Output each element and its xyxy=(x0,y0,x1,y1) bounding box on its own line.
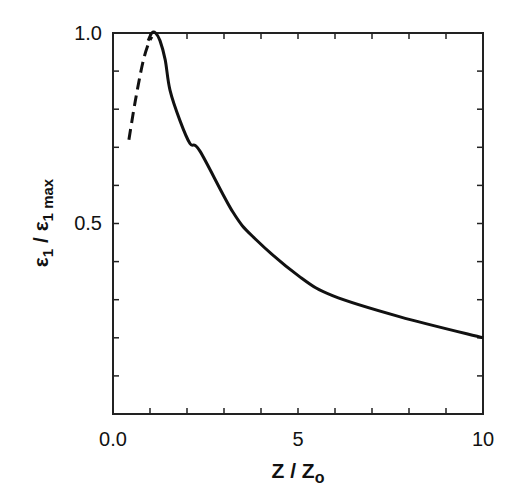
y-axis-label: ε1 / ε1 max xyxy=(29,178,56,267)
y-tick-label-0.5: 0.5 xyxy=(74,212,102,234)
data-series xyxy=(129,32,483,338)
dashed-curve xyxy=(129,37,152,140)
y-tick-label-1: 1.0 xyxy=(74,22,102,44)
x-tick-label-10: 10 xyxy=(472,428,494,450)
solid-curve xyxy=(148,32,483,338)
chart: 0.0 5 10 1.0 0.5 Z / Zo ε1 / ε1 max xyxy=(0,0,527,498)
x-axis-label: Z / Zo xyxy=(272,459,325,486)
x-tick-label-0: 0.0 xyxy=(99,428,127,450)
x-tick-label-5: 5 xyxy=(292,428,303,450)
